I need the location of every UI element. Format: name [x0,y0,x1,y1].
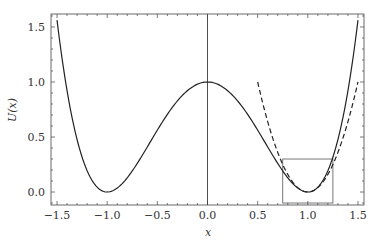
x-axis-label: x [205,226,212,239]
x-tick-label: −1.0 [94,209,121,222]
double-well-potential-chart: −1.5−1.0−0.50.00.51.01.5 0.00.51.01.5 x … [0,0,383,251]
x-tick-label: −1.5 [44,209,71,222]
x-tick-label: 0.0 [199,209,217,222]
y-tick-label: 0.0 [28,186,46,199]
x-tick-label: −0.5 [144,209,171,222]
plot-area [57,14,358,205]
harmonic-approx-curve [258,82,358,192]
x-tick-label: 1.0 [299,209,317,222]
y-tick-labels: 0.00.51.01.5 [28,21,46,199]
y-tick-label: 1.5 [28,21,46,34]
x-tick-label: 1.5 [349,209,367,222]
y-axis-label: U(x) [6,98,19,122]
y-tick-label: 0.5 [28,131,46,144]
x-tick-label: 0.5 [249,209,267,222]
x-tick-labels: −1.5−1.0−0.50.00.51.01.5 [44,209,367,222]
y-tick-label: 1.0 [28,76,46,89]
